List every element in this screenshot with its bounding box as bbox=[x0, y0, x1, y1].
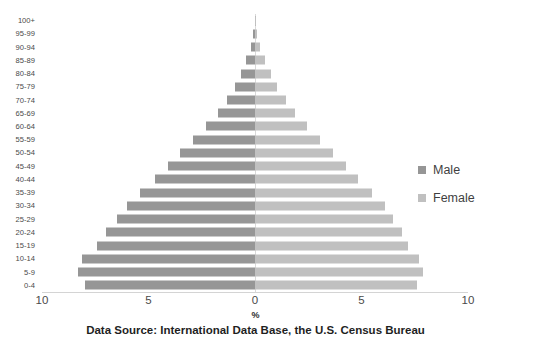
y-axis-tick-label: 15-19 bbox=[0, 239, 38, 252]
bar-female bbox=[255, 268, 423, 277]
bar-female bbox=[255, 188, 372, 197]
bar-male bbox=[241, 69, 255, 78]
bar-male bbox=[246, 56, 255, 65]
pyramid-row bbox=[42, 54, 468, 67]
y-axis-tick-label: 100+ bbox=[0, 14, 38, 27]
y-axis-tick-label: 20-24 bbox=[0, 226, 38, 239]
y-axis-tick-labels: 100+95-9990-9485-8980-8475-7970-7465-696… bbox=[0, 14, 38, 292]
chart-legend: MaleFemale bbox=[418, 163, 538, 219]
pyramid-row bbox=[42, 173, 468, 186]
y-axis-tick-label: 90-94 bbox=[0, 40, 38, 53]
y-axis-tick-label: 5-9 bbox=[0, 265, 38, 278]
bar-male bbox=[193, 135, 255, 144]
pyramid-row bbox=[42, 160, 468, 173]
bar-male bbox=[206, 122, 255, 131]
x-axis-tick-label: 5 bbox=[145, 294, 151, 306]
pyramid-row bbox=[42, 67, 468, 80]
y-axis-tick-label: 0-4 bbox=[0, 279, 38, 292]
bar-female bbox=[255, 241, 408, 250]
plot-area bbox=[42, 14, 468, 292]
pyramid-row bbox=[42, 120, 468, 133]
y-axis-tick-label: 50-54 bbox=[0, 146, 38, 159]
pyramid-row bbox=[42, 239, 468, 252]
bar-female bbox=[255, 201, 385, 210]
bar-female bbox=[255, 82, 277, 91]
legend-label: Male bbox=[433, 163, 460, 177]
bar-female bbox=[255, 254, 419, 263]
bar-male bbox=[117, 215, 255, 224]
bar-male bbox=[227, 96, 255, 105]
legend-swatch-icon bbox=[418, 166, 426, 174]
bar-female bbox=[255, 43, 260, 52]
pyramid-row bbox=[42, 199, 468, 212]
pyramid-row bbox=[42, 213, 468, 226]
x-axis-tick-label: 10 bbox=[36, 294, 49, 306]
bar-female bbox=[255, 56, 265, 65]
y-axis-tick-label: 70-74 bbox=[0, 93, 38, 106]
pyramid-row bbox=[42, 80, 468, 93]
bar-female bbox=[255, 16, 256, 25]
bar-male bbox=[78, 268, 255, 277]
bar-male bbox=[140, 188, 255, 197]
pyramid-row bbox=[42, 146, 468, 159]
pyramid-row bbox=[42, 107, 468, 120]
bar-male bbox=[97, 241, 255, 250]
y-axis-tick-label: 80-84 bbox=[0, 67, 38, 80]
x-axis-tick-labels: 1050510 bbox=[0, 294, 559, 310]
legend-item-male[interactable]: Male bbox=[418, 163, 538, 177]
y-axis-tick-label: 10-14 bbox=[0, 252, 38, 265]
bar-female bbox=[255, 109, 295, 118]
bar-female bbox=[255, 122, 307, 131]
pyramid-row bbox=[42, 14, 468, 27]
bar-male bbox=[155, 175, 255, 184]
y-axis-tick-label: 35-39 bbox=[0, 186, 38, 199]
x-axis-tick-label: 5 bbox=[358, 294, 364, 306]
bar-female bbox=[255, 215, 393, 224]
y-axis-tick-label: 25-29 bbox=[0, 213, 38, 226]
bar-female bbox=[255, 175, 358, 184]
x-axis-title: % bbox=[0, 310, 511, 320]
y-axis-tick-label: 30-34 bbox=[0, 199, 38, 212]
pyramid-row bbox=[42, 186, 468, 199]
bar-male bbox=[127, 201, 255, 210]
bar-male bbox=[180, 148, 255, 157]
pyramid-row bbox=[42, 133, 468, 146]
bar-female bbox=[255, 228, 402, 237]
bar-male bbox=[106, 228, 255, 237]
legend-swatch-icon bbox=[418, 194, 426, 202]
pyramid-row bbox=[42, 27, 468, 40]
x-axis-tick-label: 10 bbox=[462, 294, 475, 306]
y-axis-tick-label: 55-59 bbox=[0, 133, 38, 146]
bar-female bbox=[255, 69, 271, 78]
bar-male bbox=[82, 254, 255, 263]
y-axis-tick-label: 65-69 bbox=[0, 107, 38, 120]
pyramid-row bbox=[42, 40, 468, 53]
pyramid-row bbox=[42, 226, 468, 239]
bar-female bbox=[255, 148, 333, 157]
bar-male bbox=[85, 281, 255, 290]
bar-female bbox=[255, 162, 346, 171]
bar-male bbox=[218, 109, 255, 118]
bar-female bbox=[255, 29, 257, 38]
bar-female bbox=[255, 96, 286, 105]
population-pyramid-chart: 100+95-9990-9485-8980-8475-7970-7465-696… bbox=[0, 0, 559, 358]
pyramid-row bbox=[42, 93, 468, 106]
pyramid-row bbox=[42, 279, 468, 292]
chart-caption: Data Source: International Data Base, th… bbox=[0, 324, 511, 336]
bar-female bbox=[255, 135, 320, 144]
bar-female bbox=[255, 281, 417, 290]
pyramid-row bbox=[42, 252, 468, 265]
y-axis-tick-label: 75-79 bbox=[0, 80, 38, 93]
y-axis-tick-label: 40-44 bbox=[0, 173, 38, 186]
x-axis-tick-label: 0 bbox=[252, 294, 258, 306]
pyramid-row bbox=[42, 265, 468, 278]
bar-male bbox=[235, 82, 255, 91]
x-axis-line bbox=[42, 292, 468, 293]
y-axis-tick-label: 95-99 bbox=[0, 27, 38, 40]
legend-label: Female bbox=[433, 191, 475, 205]
legend-item-female[interactable]: Female bbox=[418, 191, 538, 205]
y-axis-tick-label: 60-64 bbox=[0, 120, 38, 133]
y-axis-tick-label: 45-49 bbox=[0, 160, 38, 173]
bar-male bbox=[168, 162, 255, 171]
y-axis-tick-label: 85-89 bbox=[0, 54, 38, 67]
